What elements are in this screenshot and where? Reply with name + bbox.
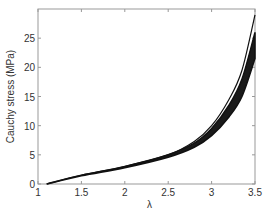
y-tick-label: 0 xyxy=(29,179,35,190)
x-tick-label: 2 xyxy=(122,187,128,198)
plot-frame xyxy=(38,9,255,184)
stress-stretch-chart: 11.522.533.50510152025λCauchy stress (MP… xyxy=(0,0,275,211)
y-tick-label: 10 xyxy=(24,121,36,132)
x-tick-label: 3.5 xyxy=(248,187,262,198)
y-tick-label: 15 xyxy=(24,92,36,103)
x-tick-label: 2.5 xyxy=(161,187,175,198)
x-axis-label: λ xyxy=(147,199,152,210)
x-tick-label: 1.5 xyxy=(74,187,88,198)
y-tick-label: 20 xyxy=(24,62,36,73)
y-axis-label: Cauchy stress (MPa) xyxy=(5,50,16,143)
y-tick-label: 25 xyxy=(24,33,36,44)
y-tick-label: 5 xyxy=(29,150,35,161)
x-tick-label: 1 xyxy=(35,187,41,198)
x-tick-label: 3 xyxy=(209,187,215,198)
